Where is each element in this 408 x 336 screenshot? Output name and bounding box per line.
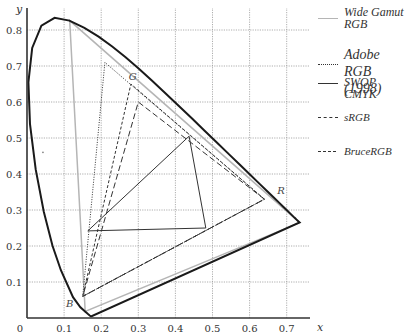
x-tick-label: 0.2 [93, 323, 109, 334]
legend-label-wide-gamut-2: RGB [344, 18, 404, 30]
x-tick-label: 0 [17, 323, 23, 334]
legend-swatch-brucergb [318, 151, 336, 152]
x-tick-label: 0.5 [205, 323, 221, 334]
point-marker [42, 152, 44, 154]
tick-labels: 00.10.20.30.40.50.60.70.10.20.30.40.50.6… [6, 3, 324, 334]
primary-label-b: B [65, 298, 73, 309]
y-tick-label: 0.3 [6, 205, 22, 216]
y-tick-label: 0.7 [6, 61, 22, 72]
legend-swatch-srgb [318, 117, 338, 118]
gamut-wide-gamut-rgb [70, 21, 300, 312]
y-axis-label: y [15, 3, 23, 16]
y-tick-label: 0.2 [6, 241, 22, 252]
x-tick-label: 0.6 [242, 323, 258, 334]
gamut-triangles [70, 21, 300, 312]
gamut-brucergb [83, 84, 265, 296]
y-tick-label: 0.4 [6, 169, 22, 180]
axes [27, 8, 310, 318]
y-tick-label: 0.1 [6, 277, 22, 288]
x-tick-label: 0.4 [167, 323, 183, 334]
gamut-srgb [83, 102, 265, 296]
x-tick-label: 0.3 [130, 323, 146, 334]
x-tick-label: 0.7 [279, 323, 295, 334]
y-tick-label: 0.6 [6, 97, 22, 108]
legend-label-srgb: sRGB [344, 111, 370, 123]
gamut-swop-cmyk [88, 136, 206, 231]
legend-label-swop-cmyk: SWOP CMYK [344, 76, 408, 100]
gamut-adobe-rgb-1998 [83, 62, 265, 296]
legend-swatch-swop-cmyk [318, 83, 338, 84]
y-tick-label: 0.5 [6, 133, 22, 144]
primary-label-r: R [276, 185, 285, 196]
legend-swatch-wide-gamut [318, 18, 338, 19]
primary-label-g: G [129, 71, 137, 82]
grid-lines [27, 8, 310, 318]
legend-swatch-adobe-rgb [318, 64, 338, 65]
legend-label-brucergb: BruceRGB [344, 145, 392, 157]
y-tick-label: 0.8 [6, 25, 22, 36]
spectral-locus [28, 18, 299, 317]
x-axis-label: x [317, 321, 324, 334]
x-tick-label: 0.1 [56, 323, 72, 334]
